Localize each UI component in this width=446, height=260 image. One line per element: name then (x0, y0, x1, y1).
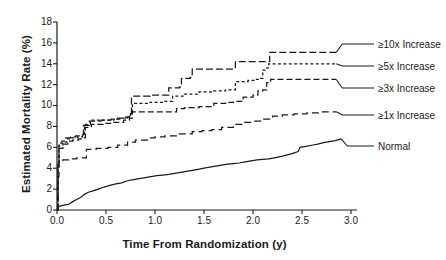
series-curve-1 (57, 64, 336, 210)
leader-line-4 (341, 139, 374, 146)
series-label-normal: Normal (378, 141, 410, 152)
series-curve-4 (57, 139, 341, 210)
series-curve-3 (57, 112, 336, 210)
mortality-chart-figure: Estimated Mortality Rate (%) Time From R… (0, 0, 446, 260)
leader-line-1 (336, 64, 374, 66)
series-curve-0 (57, 52, 336, 210)
leader-line-0 (336, 44, 374, 52)
leader-line-3 (336, 112, 374, 115)
series-curve-2 (57, 79, 336, 210)
series-label-1x: ≥1x Increase (378, 110, 435, 121)
series-label-5x: ≥5x Increase (378, 61, 435, 72)
series-label-3x: ≥3x Increase (378, 83, 435, 94)
series-curves (57, 52, 341, 210)
x-tick-marks (57, 210, 351, 214)
axes (53, 22, 357, 214)
leader-line-2 (336, 79, 374, 88)
series-leader-lines (336, 44, 374, 146)
series-label-10x: ≥10x Increase (378, 39, 441, 50)
